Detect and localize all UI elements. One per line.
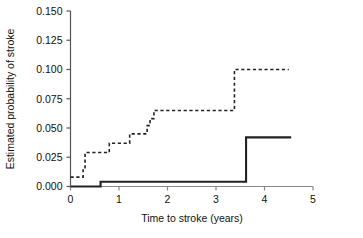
- y-tick-label: 0.025: [36, 151, 62, 163]
- y-tick-label: 0.150: [36, 5, 62, 17]
- y-axis-title: Estimated probability of stroke: [4, 29, 16, 170]
- y-tick-label: 0.100: [36, 63, 62, 75]
- y-tick-label: 0.000: [36, 180, 62, 192]
- x-tick-label: 3: [213, 193, 219, 205]
- y-tick-label: 0.125: [36, 34, 62, 46]
- x-axis-title: Time to stroke (years): [141, 212, 243, 224]
- series-group: [71, 70, 292, 187]
- x-tick-marks: [71, 187, 314, 191]
- figure-container: 0.0000.0250.0500.0750.1000.1250.150 0123…: [0, 0, 363, 238]
- x-tick-labels: 012345: [68, 193, 317, 205]
- x-tick-label: 2: [165, 193, 171, 205]
- x-tick-label: 1: [116, 193, 122, 205]
- x-tick-label: 5: [310, 193, 316, 205]
- dashed-curve-path: [71, 70, 289, 178]
- y-tick-label: 0.075: [36, 93, 62, 105]
- x-tick-label: 0: [68, 193, 74, 205]
- plot-axes: [71, 11, 314, 187]
- stroke-probability-chart: 0.0000.0250.0500.0750.1000.1250.150 0123…: [0, 0, 363, 238]
- y-tick-labels: 0.0000.0250.0500.0750.1000.1250.150: [36, 5, 62, 193]
- x-tick-label: 4: [262, 193, 268, 205]
- y-tick-label: 0.050: [36, 122, 62, 134]
- solid-curve-path: [71, 137, 292, 186]
